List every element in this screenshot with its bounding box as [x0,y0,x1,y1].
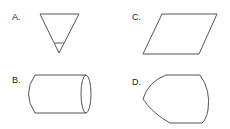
option-a-shape [40,14,79,53]
option-d-shape [143,75,209,123]
shapes-diagram [0,0,230,129]
option-b-shape [29,75,92,113]
option-c-shape [143,14,217,54]
